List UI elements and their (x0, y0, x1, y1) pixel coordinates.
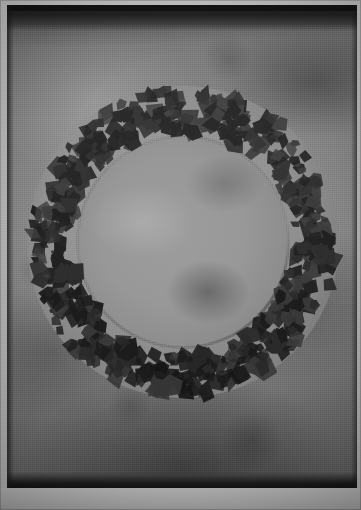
artwork-sheet (7, 5, 357, 488)
bottom-deckle-edge (7, 472, 357, 488)
surface-strip (0, 488, 361, 510)
top-deckle-edge (7, 5, 357, 31)
left-edge-shadow (7, 5, 14, 488)
right-edge-shadow (351, 5, 357, 488)
mosaic-ring (7, 5, 357, 488)
artwork-photograph: Mosaic Ring Mottled gray ground with rin… (0, 0, 361, 510)
